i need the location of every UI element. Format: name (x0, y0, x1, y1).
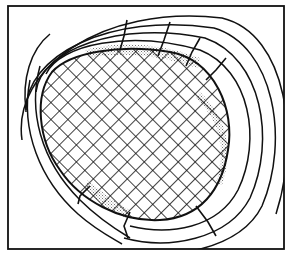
diagram-canvas (0, 0, 292, 257)
diagram-svg (0, 0, 292, 257)
